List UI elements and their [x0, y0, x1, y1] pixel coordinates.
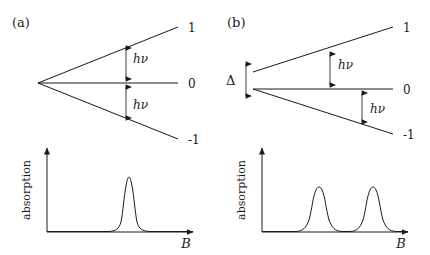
figure-background [0, 0, 430, 255]
panel-a-level-label-zero: 0 [188, 77, 196, 91]
figure-zeeman-splitting: (a) 1 0 -1 hν hν absorption B (b) 1 0 [0, 0, 430, 255]
panel-a-transition-label-upper: hν [133, 52, 148, 66]
panel-b-label: (b) [227, 15, 245, 30]
panel-b-level-label-plus1: 1 [403, 21, 411, 35]
panel-b-plot-y-axis-label: absorption [235, 160, 248, 220]
panel-b-transition-label-lower: hν [370, 102, 385, 116]
panel-a-level-label-minus1: -1 [188, 133, 200, 147]
panel-b-level-label-zero: 0 [403, 83, 411, 97]
panel-b-transition-label-upper: hν [338, 58, 353, 72]
panel-b-plot-x-axis-label: B [395, 236, 406, 251]
panel-a-level-label-plus1: 1 [188, 21, 196, 35]
panel-a-transition-label-lower: hν [133, 98, 148, 112]
panel-a-plot-x-axis-label: B [180, 236, 191, 251]
panel-a-label: (a) [12, 15, 30, 30]
figure-canvas: (a) 1 0 -1 hν hν absorption B (b) 1 0 [0, 0, 430, 255]
panel-b-zero-field-splitting-label: Δ [226, 73, 235, 88]
panel-b-level-label-minus1: -1 [403, 128, 415, 142]
panel-a-plot-y-axis-label: absorption [20, 160, 33, 220]
